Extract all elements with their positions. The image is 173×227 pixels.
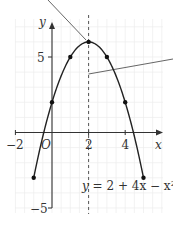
data-point — [50, 100, 54, 104]
tick-label-x-2: 2 — [85, 138, 93, 152]
tick-label-y-5: 5 — [37, 51, 45, 65]
y-axis-arrow-icon — [49, 22, 55, 29]
tick-label-x-neg2: −2 — [6, 138, 24, 152]
data-point — [32, 176, 36, 180]
tick-label-x-4: 4 — [122, 138, 130, 152]
vertex-leader-line — [48, 0, 86, 40]
y-axis-label: y — [38, 15, 46, 29]
equation-label: y = 2 + 4x − x² — [81, 179, 173, 193]
origin-label: O — [41, 138, 51, 152]
tick-label-y-neg5: −5 — [30, 202, 48, 216]
data-point — [105, 55, 109, 59]
x-axis-label: x — [155, 138, 162, 152]
data-point — [86, 40, 90, 44]
parabola-chart: y x O −2 2 4 5 −5 y = 2 + 4x − x² — [0, 0, 173, 227]
data-point — [68, 55, 72, 59]
data-point — [123, 100, 127, 104]
